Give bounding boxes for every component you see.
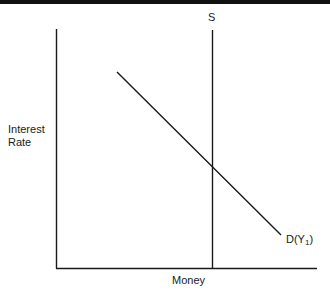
x-axis-label: Money — [172, 274, 205, 287]
supply-curve-label: S — [208, 11, 215, 24]
demand-label-subscript: 1 — [305, 238, 309, 247]
y-axis-label: Interest Rate — [8, 123, 45, 149]
demand-label-prefix: D(Y — [286, 233, 305, 245]
y-axis-label-line2: Rate — [8, 136, 45, 149]
demand-curve-label: D(Y1) — [286, 233, 313, 247]
money-demand-curve — [117, 72, 281, 235]
y-axis-label-line1: Interest — [8, 123, 45, 136]
demand-label-suffix: ) — [309, 233, 313, 245]
money-market-diagram — [0, 0, 330, 298]
